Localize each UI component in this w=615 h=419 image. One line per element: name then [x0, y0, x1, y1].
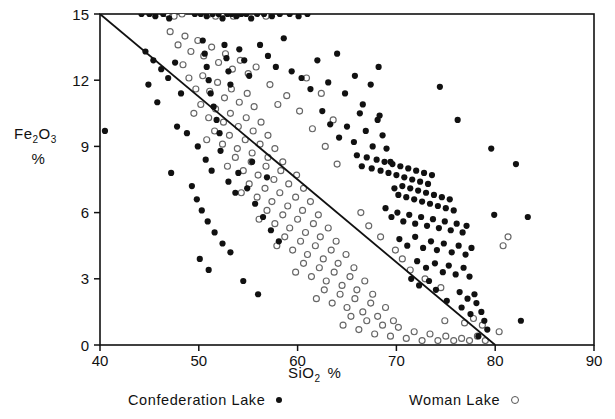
data-point-confederation-lake: [433, 287, 439, 293]
data-point-confederation-lake: [525, 214, 531, 220]
data-point-woman-lake: [284, 93, 290, 99]
data-point-woman-lake: [419, 338, 425, 344]
data-point-woman-lake: [243, 115, 249, 121]
data-point-confederation-lake: [235, 170, 241, 176]
data-point-confederation-lake: [200, 37, 206, 43]
data-point-woman-lake: [334, 161, 340, 167]
data-point-confederation-lake: [264, 174, 270, 180]
data-point-confederation-lake: [441, 240, 447, 246]
y-axis-label-unit: %: [14, 149, 57, 168]
data-point-confederation-lake: [377, 168, 383, 174]
data-point-woman-lake: [200, 73, 206, 79]
data-point-woman-lake: [442, 318, 448, 324]
data-point-woman-lake: [221, 95, 227, 101]
x-tick-label: 80: [487, 352, 504, 369]
data-point-confederation-lake: [405, 165, 411, 171]
data-point-confederation-lake: [460, 265, 466, 271]
data-point-woman-lake: [271, 177, 277, 183]
data-point-confederation-lake: [281, 35, 287, 41]
data-point-woman-lake: [198, 101, 204, 107]
data-point-confederation-lake: [415, 187, 421, 193]
data-point-woman-lake: [180, 62, 186, 68]
data-point-woman-lake: [351, 265, 357, 271]
data-point-confederation-lake: [481, 318, 487, 324]
data-point-woman-lake: [307, 199, 313, 205]
data-point-confederation-lake: [352, 73, 358, 79]
data-point-confederation-lake: [412, 221, 418, 227]
data-point-confederation-lake: [446, 262, 452, 268]
data-point-woman-lake: [251, 104, 257, 110]
data-point-woman-lake: [340, 322, 346, 328]
data-point-confederation-lake: [206, 267, 212, 273]
data-point-woman-lake: [303, 229, 309, 235]
data-point-confederation-lake: [425, 181, 431, 187]
data-point-confederation-lake: [400, 218, 406, 224]
data-point-confederation-lake: [225, 179, 231, 185]
legend-label-confederation-lake: Confederation Lake: [128, 392, 265, 408]
data-point-confederation-lake: [241, 57, 247, 63]
data-point-woman-lake: [427, 331, 433, 337]
data-point-confederation-lake: [213, 117, 219, 123]
data-point-confederation-lake: [368, 82, 374, 88]
data-point-confederation-lake: [423, 265, 429, 271]
data-point-confederation-lake: [385, 170, 391, 176]
data-point-woman-lake: [304, 252, 310, 258]
data-point-confederation-lake: [334, 51, 340, 57]
x-tick-label: 70: [388, 352, 405, 369]
data-point-confederation-lake: [379, 132, 385, 138]
data-point-confederation-lake: [431, 192, 437, 198]
data-point-confederation-lake: [195, 143, 201, 149]
data-point-woman-lake: [262, 185, 268, 191]
data-point-confederation-lake: [202, 51, 208, 57]
x-axis-tick-labels: 405060708090: [92, 352, 603, 369]
data-point-woman-lake: [328, 247, 334, 253]
data-point-confederation-lake: [388, 214, 394, 220]
data-point-woman-lake: [505, 234, 511, 240]
data-point-woman-lake: [411, 329, 417, 335]
data-point-woman-lake: [360, 309, 366, 315]
data-point-woman-lake: [290, 247, 296, 253]
data-point-confederation-lake: [219, 15, 225, 21]
data-point-confederation-lake: [432, 260, 438, 266]
data-point-woman-lake: [325, 225, 331, 231]
data-point-woman-lake: [313, 296, 319, 302]
data-point-confederation-lake: [383, 146, 389, 152]
data-point-woman-lake: [249, 150, 255, 156]
data-point-confederation-lake: [427, 201, 433, 207]
data-point-confederation-lake: [394, 210, 400, 216]
data-point-confederation-lake: [236, 46, 242, 52]
data-point-woman-lake: [254, 194, 260, 200]
data-point-woman-lake: [204, 137, 210, 143]
data-point-confederation-lake: [244, 185, 250, 191]
data-point-woman-lake: [209, 44, 215, 50]
data-point-confederation-lake: [351, 139, 357, 145]
data-point-confederation-lake: [421, 170, 427, 176]
data-point-woman-lake: [309, 126, 315, 132]
data-point-confederation-lake: [227, 249, 233, 255]
data-point-woman-lake: [496, 329, 502, 335]
x-axis-ticks: [100, 345, 594, 351]
data-point-woman-lake: [275, 101, 281, 107]
data-point-confederation-lake: [232, 190, 238, 196]
data-point-confederation-lake: [423, 190, 429, 196]
data-point-confederation-lake: [478, 309, 484, 315]
data-point-confederation-lake: [227, 82, 233, 88]
data-point-confederation-lake: [269, 13, 275, 19]
data-point-confederation-lake: [443, 205, 449, 211]
data-point-confederation-lake: [344, 123, 350, 129]
y-tick-label: 6: [81, 204, 89, 221]
data-point-woman-lake: [236, 99, 242, 105]
data-point-confederation-lake: [152, 13, 158, 19]
data-point-confederation-lake: [375, 117, 381, 123]
y-axis-ticks: [94, 14, 100, 345]
data-point-woman-lake: [216, 60, 222, 66]
data-point-woman-lake: [315, 212, 321, 218]
data-point-confederation-lake: [342, 90, 348, 96]
data-point-woman-lake: [265, 132, 271, 138]
x-axis-label-unit: %: [321, 364, 342, 381]
data-point-woman-lake: [372, 331, 378, 337]
data-point-woman-lake: [301, 260, 307, 266]
data-point-confederation-lake: [276, 238, 282, 244]
data-point-confederation-lake: [407, 185, 413, 191]
data-point-confederation-lake: [295, 13, 301, 19]
